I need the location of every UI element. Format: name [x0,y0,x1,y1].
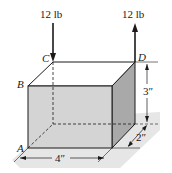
point-label-b: B [17,78,24,90]
arrowhead-top [145,64,149,70]
point-label-d: D [137,51,146,63]
point-label-c: C [42,52,50,64]
force-label-c: 12 lb [40,8,63,20]
dimension-label-height: 3″ [143,85,153,97]
point-label-a: A [16,142,24,154]
dimension-label-width: 4″ [55,152,65,164]
front-face [28,86,112,148]
force-arrow-c-head [50,53,56,62]
dimension-label-depth: 2″ [136,131,146,143]
box-force-diagram: 12 lb 12 lb C D B A 4″ 3″ 2″ [0,0,172,173]
force-arrow-d-head [132,23,138,32]
force-label-d: 12 lb [122,8,145,20]
